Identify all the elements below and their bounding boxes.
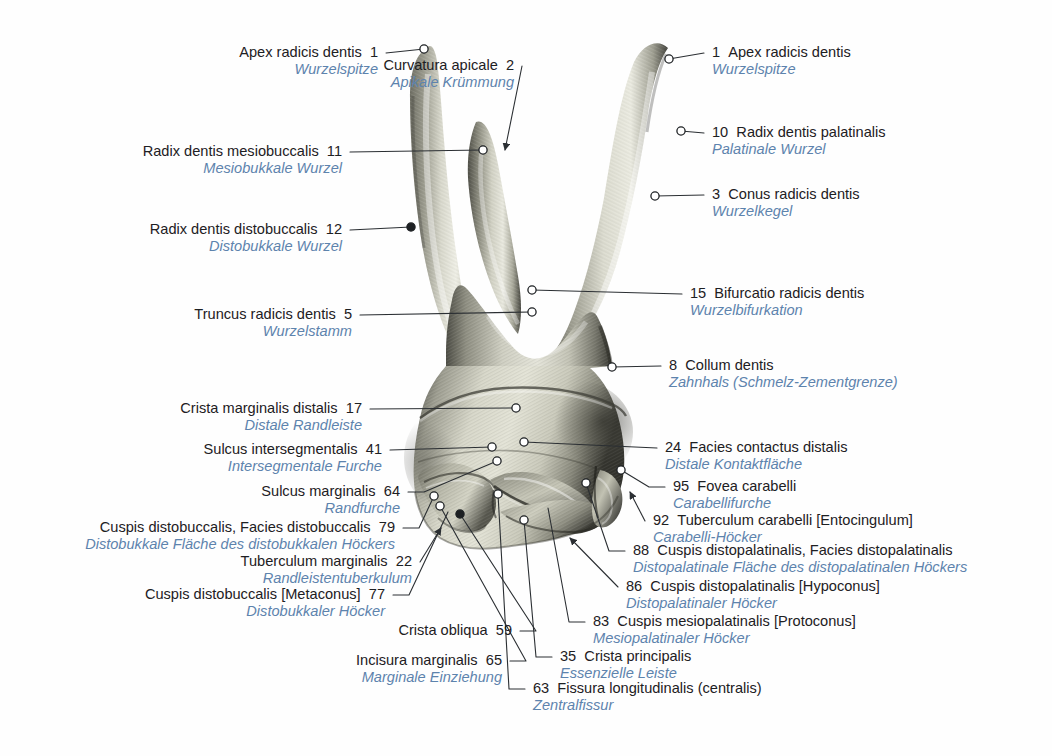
label-latin-text: Fissura longitudinalis (centralis) [557,680,761,696]
label-latin: 92 Tuberculum carabelli [Entocingulum] [653,512,913,529]
label-german: Wurzelspitze [712,61,851,78]
label-latin-text: Cuspis distopalatinalis [Hypoconus] [650,578,880,594]
label-88-right: 88 Cuspis distopalatinalis, Facies disto… [633,542,967,575]
label-latin-text: Crista marginalis distalis [180,400,337,416]
label-latin-text: Radix dentis distobuccalis [150,221,318,237]
label-german: Wurzelspitze [239,61,378,78]
label-number: 1 [712,44,720,60]
tooth-body [404,43,668,549]
label-latin-text: Truncus radicis dentis [194,306,335,322]
label-german: Essenzielle Leiste [560,665,691,682]
label-10-right: 10 Radix dentis palatinalisPalatinale Wu… [712,124,886,157]
label-latin-text: Bifurcatio radicis dentis [714,285,864,301]
label-latin-text: Incisura marginalis [356,652,478,668]
label-latin: Sulcus marginalis 64 [261,483,400,500]
label-number: 22 [396,553,412,569]
label-92-right: 92 Tuberculum carabelli [Entocingulum]Ca… [653,512,913,545]
label-latin: 83 Cuspis mesiopalatinalis [Protoconus] [593,613,856,630]
label-latin-text: Collum dentis [685,357,773,373]
label-latin-text: Cuspis distopalatinalis, Facies distopal… [657,542,952,558]
label-latin-text: Tuberculum marginalis [241,553,388,569]
label-number: 79 [379,519,395,535]
label-latin: 10 Radix dentis palatinalis [712,124,886,141]
label-number: 10 [712,124,728,140]
label-latin: Curvatura apicale 2 [383,57,514,74]
label-german: Distopalatinaler Höcker [626,595,880,612]
label-german: Randfurche [261,500,400,517]
label-german: Mesiopalatinaler Höcker [593,630,856,647]
label-8-right: 8 Collum dentisZahnhals (Schmelz-Zementg… [669,357,898,390]
label-number: 64 [384,483,400,499]
label-number: 5 [344,306,352,322]
label-german: Carabellifurche [673,495,796,512]
label-24-right: 24 Facies contactus distalisDistale Kont… [665,439,848,472]
label-3-right: 3 Conus radicis dentisWurzelkegel [712,186,860,219]
label-latin: 8 Collum dentis [669,357,898,374]
label-latin-text: Crista obliqua [398,622,487,638]
label-number: 77 [369,586,385,602]
label-latin: Apex radicis dentis 1 [239,44,378,61]
label-79-left: Cuspis distobuccalis, Facies distobuccal… [85,519,395,552]
label-65-left: Incisura marginalis 65Marginale Einziehu… [356,652,502,685]
label-latin: 1 Apex radicis dentis [712,44,851,61]
label-german: Intersegmentale Furche [204,458,382,475]
label-latin: Radix dentis distobuccalis 12 [150,221,342,238]
label-latin: 15 Bifurcatio radicis dentis [690,285,864,302]
label-latin: Cuspis distobuccalis, Facies distobuccal… [85,519,395,536]
label-number: 8 [669,357,677,373]
label-number: 59 [496,622,512,638]
label-latin-text: Radix dentis palatinalis [736,124,885,140]
label-latin: Sulcus intersegmentalis 41 [204,441,382,458]
label-latin: Truncus radicis dentis 5 [194,306,352,323]
label-german: Randleistentuberkulum [241,570,412,587]
label-22-left: Tuberculum marginalis 22Randleistentuber… [241,553,412,586]
label-latin-text: Radix dentis mesiobuccalis [143,143,319,159]
label-86-right: 86 Cuspis distopalatinalis [Hypoconus]Di… [626,578,880,611]
label-german: Zahnhals (Schmelz-Zementgrenze) [669,374,898,391]
label-number: 95 [673,478,689,494]
label-11-left: Radix dentis mesiobuccalis 11Mesiobukkal… [143,143,342,176]
label-latin-text: Sulcus intersegmentalis [204,441,358,457]
label-german: Mesiobukkale Wurzel [143,160,342,177]
label-latin: Crista obliqua 59 [398,622,512,639]
label-latin: Radix dentis mesiobuccalis 11 [143,143,342,160]
label-latin: Incisura marginalis 65 [356,652,502,669]
label-latin: 88 Cuspis distopalatinalis, Facies disto… [633,542,967,559]
label-number: 2 [506,57,514,73]
label-number: 11 [327,143,342,159]
label-latin: 95 Fovea carabelli [673,478,796,495]
label-german: Distobukkale Wurzel [150,238,342,255]
label-number: 83 [593,613,609,629]
label-number: 3 [712,186,720,202]
label-12-left: Radix dentis distobuccalis 12Distobukkal… [150,221,342,254]
label-latin-text: Apex radicis dentis [239,44,362,60]
label-number: 65 [486,652,502,668]
label-latin: 24 Facies contactus distalis [665,439,848,456]
label-number: 86 [626,578,642,594]
label-1-left: Apex radicis dentis 1Wurzelspitze [239,44,378,77]
label-latin-text: Conus radicis dentis [728,186,859,202]
label-german: Distale Kontaktfläche [665,456,848,473]
label-german: Zentralfissur [533,697,762,714]
label-41-left: Sulcus intersegmentalis 41Intersegmental… [204,441,382,474]
label-number: 1 [370,44,378,60]
label-german: Wurzelstamm [194,323,352,340]
label-latin-text: Curvatura apicale [383,57,497,73]
label-5-left: Truncus radicis dentis 5Wurzelstamm [194,306,352,339]
label-latin-text: Cuspis mesiopalatinalis [Protoconus] [617,613,855,629]
label-number: 17 [346,400,362,416]
label-latin-text: Cuspis distobuccalis [Metaconus] [145,586,361,602]
anatomical-plate: Apex radicis dentis 1WurzelspitzeCurvatu… [0,0,1052,756]
label-german: Distale Randleiste [180,417,362,434]
label-latin: 86 Cuspis distopalatinalis [Hypoconus] [626,578,880,595]
label-latin-text: Crista principalis [584,648,691,664]
crown [404,366,633,549]
label-number: 92 [653,512,669,528]
label-number: 12 [326,221,342,237]
label-german: Palatinale Wurzel [712,141,886,158]
label-1-right: 1 Apex radicis dentisWurzelspitze [712,44,851,77]
label-95-right: 95 Fovea carabelliCarabellifurche [673,478,796,511]
label-number: 41 [366,441,382,457]
label-latin-text: Facies contactus distalis [689,439,847,455]
root-palatinal [544,43,668,365]
